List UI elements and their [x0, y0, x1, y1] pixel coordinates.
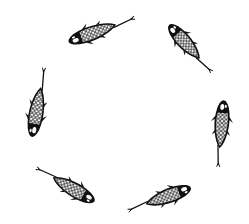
koi-circle-illustration — [0, 0, 249, 224]
koi-fish-bottom-right — [124, 178, 194, 221]
koi-fish-left — [21, 66, 55, 138]
koi-fish-top-left — [66, 7, 139, 51]
koi-fish-top-right — [161, 18, 219, 79]
koi-fish-bottom-left — [31, 158, 99, 210]
koi-fish-right — [207, 100, 235, 168]
